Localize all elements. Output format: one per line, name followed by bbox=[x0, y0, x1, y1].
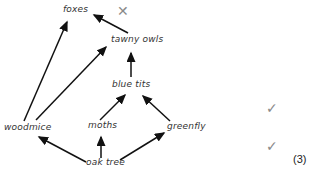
node-foxes: foxes bbox=[63, 4, 88, 14]
node-blue-tits: blue tits bbox=[112, 79, 150, 89]
arrow-oaktree-greenfly bbox=[120, 133, 164, 160]
node-greenfly: greenfly bbox=[167, 121, 206, 131]
arrow-woodmice-foxes bbox=[24, 22, 67, 121]
cross-mark-icon: ✕ bbox=[117, 3, 129, 19]
node-moths: moths bbox=[88, 120, 117, 130]
arrow-woodmice-tawnyowls bbox=[36, 47, 106, 120]
arrow-moths-bluetits bbox=[100, 95, 125, 120]
node-woodmice: woodmice bbox=[4, 122, 51, 132]
arrow-greenfly-bluetits bbox=[143, 96, 170, 121]
tick-mark-icon-2: ✓ bbox=[266, 138, 278, 154]
arrow-oaktree-woodmice bbox=[39, 137, 86, 162]
tick-mark-icon-1: ✓ bbox=[266, 100, 278, 116]
score-label: (3) bbox=[293, 153, 306, 165]
node-tawny-owls: tawny owls bbox=[111, 34, 163, 44]
node-oak-tree: oak tree bbox=[86, 157, 125, 167]
